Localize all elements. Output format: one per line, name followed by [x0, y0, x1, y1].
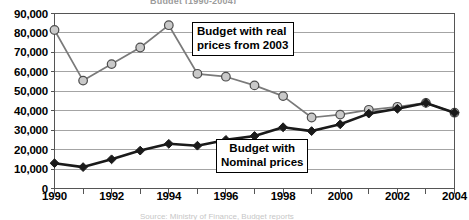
data-point-marker: [136, 146, 145, 155]
data-point-marker: [307, 113, 316, 122]
data-point-marker: [79, 163, 88, 172]
annotation-nominal-prices: Budget with Nominal prices: [216, 139, 308, 173]
data-point-marker: [193, 141, 202, 150]
data-point-marker: [136, 43, 145, 52]
budget-line-chart: Budget (1990-2004) 010,00020,00030,00040…: [0, 0, 469, 220]
data-point-marker: [79, 76, 88, 85]
data-point-marker: [107, 60, 116, 69]
annotation-nominal-line1: Budget with: [221, 142, 303, 156]
data-point-marker: [193, 70, 202, 79]
data-point-marker: [336, 110, 345, 119]
data-point-marker: [165, 21, 174, 30]
annotation-real-line1: Budget with real: [197, 25, 289, 39]
annotation-nominal-line2: Nominal prices: [221, 156, 303, 170]
annotation-real-prices: Budget with real prices from 2003: [192, 22, 294, 56]
data-point-marker: [279, 92, 288, 101]
chart-caption-partial: Source: Ministry of Finance, Budget repo…: [140, 212, 440, 220]
data-point-marker: [336, 120, 345, 129]
data-point-marker: [307, 127, 316, 136]
data-point-marker: [50, 26, 59, 35]
data-point-marker: [222, 72, 231, 81]
data-point-marker: [164, 139, 173, 148]
data-point-marker: [50, 159, 59, 168]
annotation-real-line2: prices from 2003: [197, 39, 289, 53]
data-point-marker: [250, 81, 259, 90]
data-point-marker: [107, 155, 116, 164]
